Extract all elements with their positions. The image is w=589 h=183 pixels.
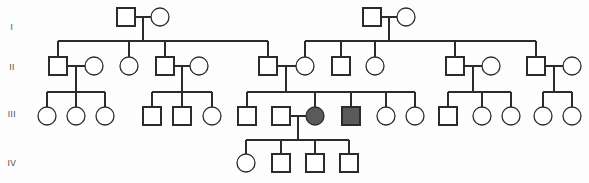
individual-ii6-male-unaffected: II-6 — male — unaffected individual xyxy=(259,57,277,75)
individual-iii9-female-affected: III-9 — female — affected individual xyxy=(306,107,324,125)
generation-label-iii: III xyxy=(8,109,16,119)
individual-iii16-female-unaffected: III-16 — female — unaffected individual xyxy=(534,107,552,125)
individual-iii6-female-unaffected: III-6 — female — unaffected individual xyxy=(203,107,221,125)
relationship-lines-layer xyxy=(47,17,572,154)
individual-ii11-female-unaffected: II-11 — female — unaffected individual xyxy=(482,57,500,75)
individual-ii1-male-unaffected: II-1 — male — unaffected individual xyxy=(49,57,67,75)
individual-ii7-female-unaffected: II-7 — female — unaffected individual xyxy=(296,57,314,75)
individual-iii12-female-unaffected: III-12 — female — unaffected individual xyxy=(406,107,424,125)
generation-label-iv: IV xyxy=(8,158,17,168)
individual-iii10-male-affected: III-10 — male — affected individual xyxy=(342,107,360,125)
individual-iii3-female-unaffected: III-3 — female — unaffected individual xyxy=(96,107,114,125)
individual-i2-female-unaffected: I-2 — female — unaffected individual xyxy=(151,8,169,26)
individual-ii8-male-unaffected: II-8 — male — unaffected individual xyxy=(332,57,350,75)
pedigree-canvas: I-1 — male — unaffected individualI-2 — … xyxy=(0,0,589,183)
individual-i3-male-unaffected: I-3 — male — unaffected individual xyxy=(363,8,381,26)
individual-iii5-male-unaffected: III-5 — male — unaffected individual xyxy=(173,107,191,125)
individual-iii2-female-unaffected: III-2 — female — unaffected individual xyxy=(67,107,85,125)
individual-ii4-male-unaffected: II-4 — male — unaffected individual xyxy=(156,57,174,75)
individual-ii13-female-unaffected: II-13 — female — unaffected individual xyxy=(563,57,581,75)
individual-ii5-female-unaffected: II-5 — female — unaffected individual xyxy=(190,57,208,75)
individual-ii9-female-unaffected: II-9 — female — unaffected individual xyxy=(366,57,384,75)
individual-iii14-female-unaffected: III-14 — female — unaffected individual xyxy=(473,107,491,125)
individual-iv4-male-unaffected: IV-4 — male — unaffected individual xyxy=(340,154,358,172)
individual-ii3-female-unaffected: II-3 — female — unaffected individual xyxy=(120,57,138,75)
individual-i1-male-unaffected: I-1 — male — unaffected individual xyxy=(117,8,135,26)
individual-iii11-female-unaffected: III-11 — female — unaffected individual xyxy=(377,107,395,125)
individual-iii13-male-unaffected: III-13 — male — unaffected individual xyxy=(439,107,457,125)
generation-labels-layer: IIIIIIIV xyxy=(8,22,17,168)
individual-iv3-male-unaffected: IV-3 — male — unaffected individual xyxy=(306,154,324,172)
generation-label-ii: II xyxy=(9,62,15,72)
individual-iii15-female-unaffected: III-15 — female — unaffected individual xyxy=(502,107,520,125)
pedigree-chart: I-1 — male — unaffected individualI-2 — … xyxy=(0,0,589,183)
individual-ii12-male-unaffected: II-12 — male — unaffected individual xyxy=(527,57,545,75)
individual-iii7-male-unaffected: III-7 — male — unaffected individual xyxy=(238,107,256,125)
individual-iii8-male-unaffected: III-8 — male — unaffected individual xyxy=(272,107,290,125)
generation-label-i: I xyxy=(11,22,14,32)
individual-i4-female-unaffected: I-4 — female — unaffected individual xyxy=(397,8,415,26)
individual-iv1-female-unaffected: IV-1 — female — unaffected individual xyxy=(237,154,255,172)
individual-iii1-female-unaffected: III-1 — female — unaffected individual xyxy=(38,107,56,125)
individual-ii2-female-unaffected: II-2 — female — unaffected individual xyxy=(85,57,103,75)
individual-iv2-male-unaffected: IV-2 — male — unaffected individual xyxy=(272,154,290,172)
individual-iii17-female-unaffected: III-17 — female — unaffected individual xyxy=(563,107,581,125)
individual-symbols-layer: I-1 — male — unaffected individualI-2 — … xyxy=(38,8,581,172)
individual-ii10-male-unaffected: II-10 — male — unaffected individual xyxy=(446,57,464,75)
individual-iii4-male-unaffected: III-4 — male — unaffected individual xyxy=(143,107,161,125)
